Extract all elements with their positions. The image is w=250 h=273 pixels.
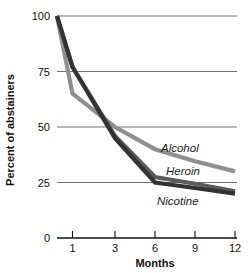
x-tick-label-3: 3 <box>112 242 118 254</box>
x-tick-label-12: 12 <box>229 242 241 254</box>
y-tick-label-25: 25 <box>38 177 50 189</box>
series-label-heroin: Heroin <box>166 165 200 177</box>
y-tick-label-75: 75 <box>38 66 50 78</box>
x-axis-tick-labels: 1 3 6 9 12 <box>69 242 241 254</box>
chart-figure: 100 75 50 25 0 Percent of abstainers Alc… <box>0 0 250 273</box>
series-label-alcohol: Alcohol <box>160 142 199 154</box>
x-axis-title: Months <box>135 257 174 269</box>
series-line-alcohol <box>57 16 235 171</box>
x-tick-label-6: 6 <box>152 242 158 254</box>
y-tick-label-0: 0 <box>44 232 50 244</box>
y-tick-label-50: 50 <box>38 121 50 133</box>
y-axis-title: Percent of abstainers <box>4 74 16 186</box>
y-axis-tick-labels: 100 75 50 25 0 <box>32 10 50 244</box>
data-series <box>57 16 235 194</box>
x-axis-ticks <box>73 231 236 238</box>
gridlines <box>57 16 237 183</box>
x-tick-label-9: 9 <box>192 242 198 254</box>
series-label-nicotine: Nicotine <box>157 195 199 207</box>
series-labels: Alcohol Heroin Nicotine <box>157 142 200 207</box>
x-tick-label-1: 1 <box>69 242 75 254</box>
y-tick-label-100: 100 <box>32 10 50 22</box>
line-chart: 100 75 50 25 0 Percent of abstainers Alc… <box>0 0 250 273</box>
